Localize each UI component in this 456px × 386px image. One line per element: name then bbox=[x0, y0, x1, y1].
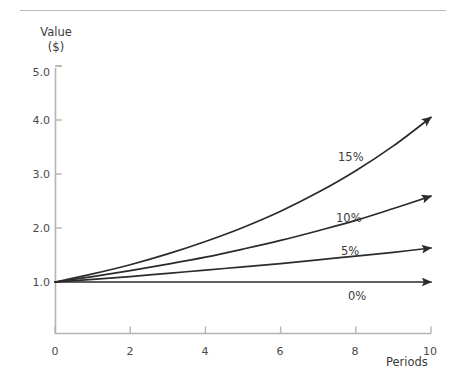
plot-area bbox=[0, 0, 456, 386]
curve-15pct bbox=[55, 117, 431, 282]
compound-interest-chart: Value ($) Periods 5.0 4.0 3.0 2.0 1.0 0 … bbox=[0, 0, 456, 386]
axes bbox=[55, 68, 431, 334]
x-tick-marks bbox=[55, 327, 431, 334]
series-curves bbox=[55, 117, 431, 282]
curve-5pct bbox=[55, 248, 431, 282]
